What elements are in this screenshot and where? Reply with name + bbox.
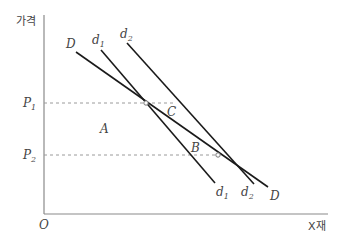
p1-label: P1	[22, 96, 36, 112]
curve-d2-top-label: d2	[120, 27, 133, 43]
p2-label: P2	[22, 148, 36, 164]
curve-d2-bottom-label: d2	[241, 185, 254, 201]
curve-d1-top-label: d1	[92, 33, 105, 49]
curve-d1-bottom-label: d1	[216, 185, 229, 201]
origin-label: O	[39, 218, 49, 232]
y-axis-label: 가격	[16, 15, 36, 28]
x-axis-label: X재	[308, 220, 326, 233]
intersection-point-p1	[144, 101, 148, 105]
demand-curve-d2	[127, 43, 254, 184]
economics-diagram: 가격 O X재 P1 P2 D d1 d2 d1 d2 D A C B	[0, 0, 348, 243]
region-A-label: A	[99, 122, 109, 136]
curve-D-top-label: D	[65, 37, 76, 51]
intersection-point-p2	[216, 153, 220, 157]
region-B-label: B	[190, 141, 200, 155]
region-C-label: C	[167, 105, 176, 119]
demand-curve-d1	[101, 50, 215, 183]
curve-D-bottom-label: D	[269, 189, 280, 203]
